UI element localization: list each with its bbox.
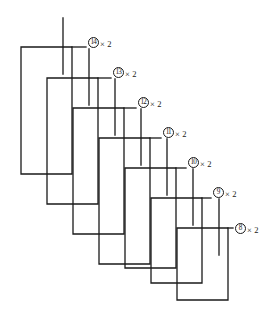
circled-bar-mark-8: 8 [235,223,246,234]
bar-quantity-12: × 2 [149,99,162,110]
bar-quantity-9: × 2 [224,189,237,200]
staple-shapes-group [21,47,228,300]
leader-lines-group [72,47,233,228]
staple-diagram-svg [0,0,275,317]
staple-tick-marks-group [63,18,219,255]
circled-bar-mark-14: 14 [88,37,99,48]
bar-mark-label-10: 10× 2 [188,157,212,170]
bar-mark-label-14: 14× 2 [88,37,112,50]
figure-canvas: 14× 213× 212× 211× 210× 29× 28× 2 [0,0,275,317]
bar-quantity-10: × 2 [199,159,212,170]
circled-bar-mark-10: 10 [188,157,199,168]
bar-quantity-14: × 2 [99,39,112,50]
circled-bar-mark-13: 13 [113,67,124,78]
circled-bar-mark-9: 9 [213,187,224,198]
bar-quantity-11: × 2 [174,129,187,140]
bar-mark-label-8: 8× 2 [235,223,259,236]
bar-mark-label-12: 12× 2 [138,97,162,110]
circled-bar-mark-12: 12 [138,97,149,108]
bar-mark-label-13: 13× 2 [113,67,137,80]
bar-mark-label-11: 11× 2 [163,127,187,140]
bar-quantity-13: × 2 [124,69,137,80]
bar-quantity-8: × 2 [246,225,259,236]
bar-mark-label-9: 9× 2 [213,187,237,200]
circled-bar-mark-11: 11 [163,127,174,138]
